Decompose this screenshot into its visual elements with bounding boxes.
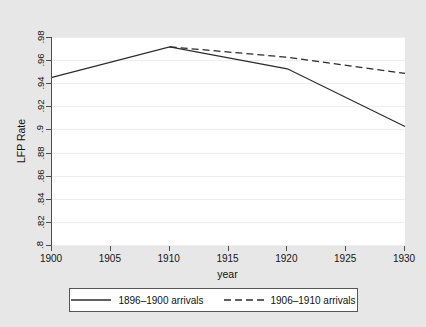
y-axis-tick-label: .88 — [0, 147, 40, 159]
x-axis-tick-label: 1905 — [99, 253, 121, 264]
x-axis-tick — [169, 246, 170, 251]
legend-entry-dashed[interactable]: 1906–1910 arrivals — [214, 295, 366, 306]
series-layer — [52, 37, 405, 245]
x-axis-tick-label: 1915 — [216, 253, 238, 264]
y-axis-tick-label: .94 — [0, 77, 40, 89]
y-axis-tick — [46, 153, 51, 154]
y-axis-tick-label: .86 — [0, 170, 40, 182]
legend-label-series-1: 1896–1900 arrivals — [118, 295, 203, 306]
series-line-1 — [52, 47, 405, 127]
plot-area — [51, 37, 405, 246]
y-axis-tick-labels: .8.82.84.86.88.9.92.94.96.98 — [0, 37, 44, 245]
y-axis-tick — [46, 106, 51, 107]
y-axis-tick-label: .9 — [0, 123, 40, 135]
x-axis-ticks — [51, 246, 404, 252]
x-axis-tick — [404, 246, 405, 251]
y-axis-tick — [46, 83, 51, 84]
x-axis-tick — [51, 246, 52, 251]
y-axis-tick — [46, 176, 51, 177]
y-axis-tick — [46, 60, 51, 61]
legend-entry-solid[interactable]: 1896–1900 arrivals — [61, 295, 213, 306]
y-axis-tick — [46, 37, 51, 38]
x-axis-tick — [110, 246, 111, 251]
y-axis-tick — [46, 199, 51, 200]
y-axis-tick-label: .84 — [0, 193, 40, 205]
y-axis-tick-label: .98 — [0, 31, 40, 43]
x-axis-tick-label: 1930 — [393, 253, 415, 264]
y-axis-tick — [46, 129, 51, 130]
legend-label-series-2: 1906–1910 arrivals — [271, 295, 356, 306]
y-axis-tick-label: .96 — [0, 54, 40, 66]
x-axis-title: year — [51, 268, 404, 280]
y-axis-tick-label: .92 — [0, 100, 40, 112]
y-axis-tick — [46, 222, 51, 223]
x-axis-title-label: year — [217, 268, 237, 280]
chart-legend: 1896–1900 arrivals 1906–1910 arrivals — [69, 288, 358, 312]
legend-key-solid-line-icon — [71, 295, 111, 305]
legend-key-dashed-line-icon — [224, 295, 264, 305]
x-axis-tick — [286, 246, 287, 251]
x-axis-tick-label: 1900 — [40, 253, 62, 264]
x-axis-tick — [345, 246, 346, 251]
x-axis-tick-labels: 1900190519101915192019251930 — [51, 253, 404, 267]
y-axis-tick-label: .82 — [0, 216, 40, 228]
y-axis-tick-label: .8 — [0, 239, 40, 251]
x-axis-tick — [228, 246, 229, 251]
chart-figure: LFP Rate .8.82.84.86.88.9.92.94.96.98 19… — [0, 0, 426, 327]
x-axis-tick-label: 1925 — [334, 253, 356, 264]
x-axis-tick-label: 1910 — [158, 253, 180, 264]
x-axis-tick-label: 1920 — [275, 253, 297, 264]
